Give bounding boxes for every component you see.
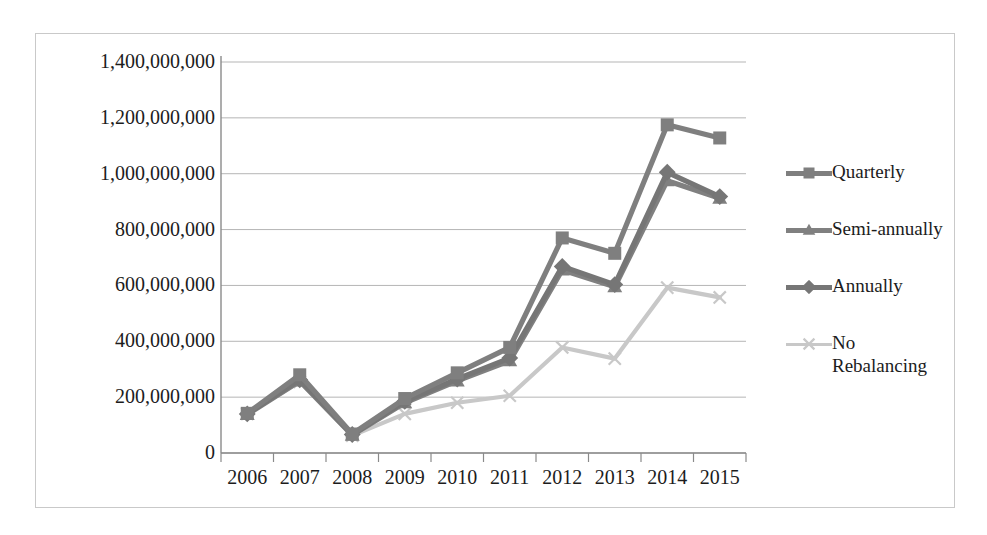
x-axis-tick-label: 2006 [217,466,277,488]
x-axis-tick-label: 2013 [585,466,645,488]
x-axis-tick-label: 2015 [690,466,750,488]
x-axis-tick-label: 2012 [532,466,592,488]
legend-item[interactable]: No Rebalancing [786,331,927,377]
chart-page: 0200,000,000400,000,000600,000,000800,00… [0,0,987,535]
data-point-marker [803,224,816,235]
legend-marker-square-icon [786,162,832,182]
data-point-marker [804,339,815,350]
x-axis-tick-label: 2008 [322,466,382,488]
data-point-marker [804,168,815,179]
x-axis-tick-label: 2010 [427,466,487,488]
legend-item[interactable]: Annually [786,274,903,297]
x-axis-tick-label: 2007 [270,466,330,488]
x-axis-tick-label: 2014 [637,466,697,488]
legend-key-glyph [802,223,816,237]
legend-item[interactable]: Quarterly [786,160,905,183]
x-axis-labels: 2006200720082009201020112012201320142015 [0,0,987,535]
legend-label: Annually [832,274,903,297]
legend-key-glyph [802,337,816,351]
legend-item[interactable]: Semi-annually [786,217,943,240]
legend-marker-diamond-icon [786,276,832,296]
legend-label: Semi-annually [832,217,943,240]
data-point-marker [802,280,816,294]
x-axis-tick-label: 2009 [375,466,435,488]
legend-marker-x-icon [786,333,832,353]
legend-label: Quarterly [832,160,905,183]
legend-key-glyph [802,280,816,294]
legend-marker-triangle-icon [786,219,832,239]
legend-key-glyph [802,166,816,180]
legend-label: No Rebalancing [832,331,927,377]
x-axis-tick-label: 2011 [480,466,540,488]
